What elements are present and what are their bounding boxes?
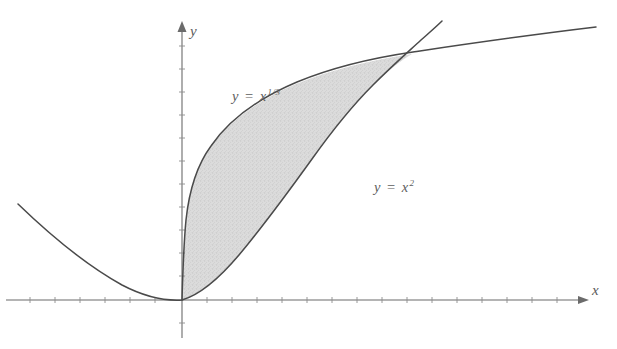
lower-label-operator: = <box>387 179 396 195</box>
upper-label-operator: = <box>245 88 254 104</box>
x-axis-label: x <box>591 282 599 298</box>
upper-label-lhs: y <box>230 88 239 104</box>
math-figure: x y y=x1/3 y=x2 <box>0 0 617 349</box>
y-axis-label: y <box>188 23 197 39</box>
svg-text:y=x2: y=x2 <box>372 178 414 195</box>
y-axis-arrowhead <box>178 21 187 32</box>
lower-label-base: x <box>401 179 409 195</box>
x-axis-arrowhead <box>578 296 589 304</box>
upper-label-base: x <box>259 88 267 104</box>
lower-label-exponent: 2 <box>409 178 414 188</box>
shaded-region <box>182 54 412 300</box>
lower-label-lhs: y <box>372 179 381 195</box>
upper-label-exponent: 1/3 <box>267 87 280 97</box>
lower-curve-label: y=x2 <box>372 178 414 195</box>
